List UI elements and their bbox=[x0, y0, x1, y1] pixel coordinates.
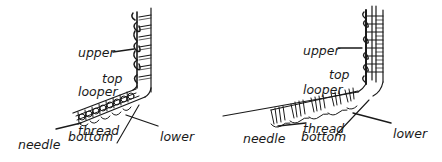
label-line: looper bbox=[78, 85, 119, 98]
label-line: needle bbox=[243, 132, 285, 145]
upper-stitch-rungs bbox=[139, 15, 151, 80]
leader-lower-looper bbox=[353, 113, 391, 123]
upper-looper-loops bbox=[132, 13, 140, 83]
label-line: looper bbox=[303, 83, 344, 96]
label-lower-looper-thread: lower looper thread bbox=[160, 104, 201, 162]
leader-fabric bbox=[117, 105, 139, 143]
label-bottom: bottom bbox=[68, 130, 113, 143]
label-needle-thread: needle thread bbox=[18, 112, 60, 162]
label-needle-thread: needle thread bbox=[243, 106, 285, 162]
label-bottom: bottom bbox=[301, 130, 346, 143]
diagram-left: upper looper thread top needle thread bo… bbox=[0, 0, 221, 162]
diagram-right: upper looper thread top needle thread bo… bbox=[221, 0, 442, 162]
label-line: upper bbox=[303, 44, 344, 57]
label-top: top bbox=[102, 72, 122, 85]
label-line: needle bbox=[18, 138, 60, 151]
leader-lower-looper bbox=[126, 115, 158, 126]
label-top: top bbox=[329, 68, 349, 81]
label-line: upper bbox=[78, 46, 119, 59]
label-line: lower bbox=[393, 127, 434, 140]
upper-stitch-rungs bbox=[366, 16, 383, 72]
label-lower-looper-thread: lower looper thread bbox=[393, 101, 434, 162]
label-line: lower bbox=[160, 130, 201, 143]
